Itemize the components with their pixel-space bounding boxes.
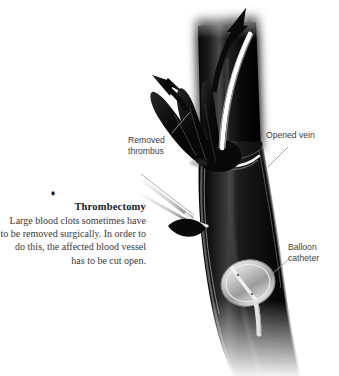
thrombus-gloss	[190, 159, 208, 167]
label-balloon-catheter: Balloon catheter	[288, 242, 319, 263]
leader-opened-vein	[268, 147, 288, 167]
balloon-marker-upper	[237, 274, 240, 277]
caption-block: ♦ Thrombectomy Large blood clots sometim…	[0, 188, 146, 267]
label-removed-thrombus: Removed thrombus	[128, 135, 165, 156]
illustration-canvas: ♦ Thrombectomy Large blood clots sometim…	[0, 0, 339, 376]
vein	[196, 14, 300, 376]
caption-title: Thrombectomy	[0, 200, 146, 213]
caption-body: Large blood clots sometimes have to be r…	[0, 214, 146, 267]
label-opened-vein: Opened vein	[266, 130, 315, 141]
balloon-marker-lower	[251, 293, 254, 296]
caption-bullet-icon: ♦	[0, 188, 146, 198]
